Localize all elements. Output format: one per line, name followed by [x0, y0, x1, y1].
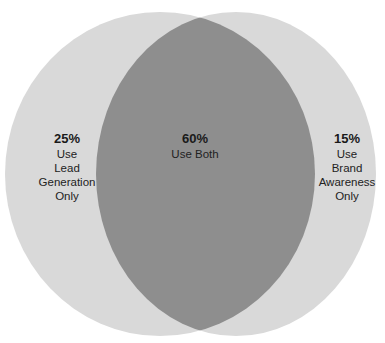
left-description: Use Lead Generation Only: [22, 147, 112, 203]
right-percent: 15%: [309, 131, 385, 147]
left-percent: 25%: [22, 131, 112, 147]
center-description: Use Both: [150, 147, 240, 161]
center-region-label: 60% Use Both: [150, 131, 240, 161]
right-region-label: 15% Use Brand Awareness Only: [309, 131, 385, 203]
right-description: Use Brand Awareness Only: [309, 147, 385, 203]
left-region-label: 25% Use Lead Generation Only: [22, 131, 112, 203]
center-percent: 60%: [150, 131, 240, 147]
